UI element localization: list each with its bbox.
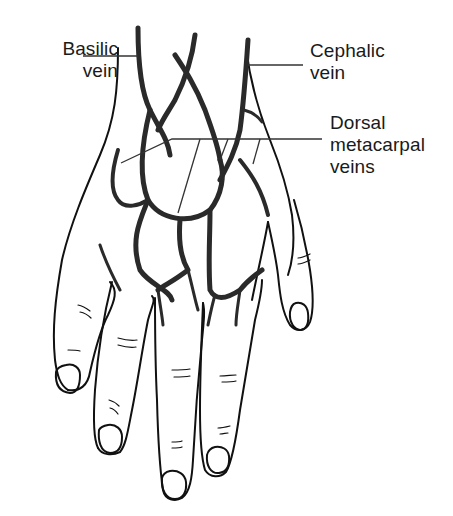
dorsal-leader-line-mid2 (220, 139, 228, 160)
vein-network (100, 28, 268, 325)
cephalic-label-line1: Cephalic (310, 40, 385, 62)
basilic-label-line1: Basilic (18, 38, 118, 60)
dorsal-label-line1: Dorsal (330, 112, 425, 134)
cephalic-label-line2: vein (310, 62, 385, 84)
dorsal-leader-line-mid (178, 139, 200, 213)
basilic-vein-label: Basilic vein (18, 38, 118, 82)
dorsal-metacarpal-veins-label: Dorsal metacarpal veins (330, 112, 425, 178)
dorsal-label-line2: metacarpal (330, 134, 425, 156)
dorsal-leader-line-right (253, 139, 260, 164)
dorsal-label-line3: veins (330, 156, 425, 178)
cephalic-vein-label: Cephalic vein (310, 40, 385, 84)
basilic-label-line2: vein (18, 60, 118, 82)
hand-vein-diagram: Basilic vein Cephalic vein Dorsal metaca… (0, 0, 453, 516)
